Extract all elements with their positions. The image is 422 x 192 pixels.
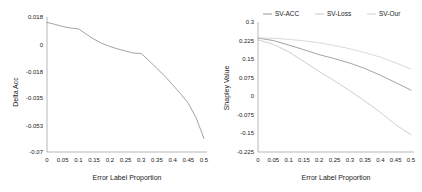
y-tick-label: -0.018 [26, 69, 44, 75]
x-tick-label: 0.35 [151, 157, 163, 163]
x-tick-label: 0.15 [88, 157, 100, 163]
y-tick-label: 0 [251, 93, 255, 99]
chart-panel-shapley-value: 0.30.2250.150.0750-0.075-0.15-0.225 00.0… [211, 0, 422, 192]
x-tick-label: 0.3 [137, 157, 146, 163]
right-x-axis-title: Error Label Proportion [302, 174, 371, 182]
legend: SV-ACCSV-LossSV-Our [263, 10, 401, 17]
y-tick-label: -0.07 [29, 149, 43, 155]
x-tick-label: 0.5 [200, 157, 209, 163]
x-tick-label: 0 [256, 157, 260, 163]
y-tick-label: -0.15 [240, 130, 254, 136]
delta-acc-plot: 0.0180-0.018-0.035-0.053-0.07 00.050.10.… [0, 0, 211, 192]
x-tick-label: 0 [45, 157, 49, 163]
figure-container: 0.0180-0.018-0.035-0.053-0.07 00.050.10.… [0, 0, 422, 192]
series-line-sv-loss [258, 40, 411, 135]
x-tick-label: 0.25 [329, 157, 341, 163]
right-y-tick-labels: 0.30.2250.150.0750-0.075-0.15-0.225 [237, 19, 255, 155]
y-tick-label: 0 [40, 42, 44, 48]
right-y-axis-title: Shapley Value [223, 66, 231, 111]
y-tick-label: -0.225 [237, 149, 255, 155]
y-tick-label: -0.053 [26, 123, 44, 129]
x-tick-label: 0.05 [57, 157, 69, 163]
y-tick-label: 0.225 [239, 38, 255, 44]
y-tick-label: 0.075 [239, 75, 255, 81]
legend-label: SV-Loss [327, 10, 352, 17]
x-tick-label: 0.25 [120, 157, 132, 163]
x-tick-label: 0.5 [407, 157, 416, 163]
right-series-group [258, 38, 411, 135]
y-tick-label: -0.035 [26, 95, 44, 101]
left-y-axis-title: Delta Acc [12, 77, 19, 107]
left-plot-axes [47, 17, 207, 152]
series-line-delta-acc [47, 22, 204, 138]
y-tick-label: 0.018 [28, 14, 44, 20]
chart-panel-delta-acc: 0.0180-0.018-0.035-0.053-0.07 00.050.10.… [0, 0, 211, 192]
left-y-tick-labels: 0.0180-0.018-0.035-0.053-0.07 [26, 14, 44, 155]
x-tick-label: 0.3 [346, 157, 355, 163]
x-tick-label: 0.15 [298, 157, 310, 163]
legend-label: SV-ACC [275, 10, 300, 17]
right-plot-axes [258, 22, 414, 152]
left-x-tick-labels: 00.050.10.150.20.250.30.350.40.450.5 [45, 157, 209, 163]
x-tick-label: 0.1 [74, 157, 83, 163]
y-tick-label: 0.15 [242, 56, 254, 62]
x-tick-label: 0.4 [376, 157, 385, 163]
right-x-tick-labels: 00.050.10.150.20.250.30.350.40.450.5 [256, 157, 416, 163]
x-tick-label: 0.2 [106, 157, 115, 163]
y-tick-label: 0.3 [246, 19, 255, 25]
left-x-axis-title: Error Label Proportion [93, 174, 162, 182]
shapley-value-plot: 0.30.2250.150.0750-0.075-0.15-0.225 00.0… [211, 0, 422, 192]
legend-label: SV-Our [379, 10, 401, 17]
left-series-group [47, 22, 204, 138]
x-tick-label: 0.45 [390, 157, 402, 163]
y-tick-label: -0.075 [237, 112, 255, 118]
x-tick-label: 0.35 [359, 157, 371, 163]
x-tick-label: 0.2 [315, 157, 324, 163]
x-tick-label: 0.05 [267, 157, 279, 163]
x-tick-label: 0.4 [168, 157, 177, 163]
x-tick-label: 0.45 [182, 157, 194, 163]
x-tick-label: 0.1 [284, 157, 293, 163]
